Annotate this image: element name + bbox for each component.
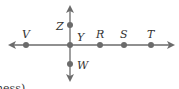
point-y bbox=[67, 42, 73, 48]
label-z: Z bbox=[55, 20, 64, 33]
point-r bbox=[97, 42, 103, 48]
point-t bbox=[148, 42, 154, 48]
point-w bbox=[67, 61, 73, 67]
label-v: V bbox=[22, 28, 31, 41]
cut-off-text: ness) bbox=[0, 82, 25, 89]
label-y: Y bbox=[77, 31, 86, 44]
point-s bbox=[121, 42, 127, 48]
label-r: R bbox=[95, 28, 104, 41]
label-w: W bbox=[77, 59, 90, 72]
label-t: T bbox=[147, 28, 156, 41]
line-diagram: V Y R S T Z W ness) bbox=[0, 0, 179, 89]
point-z bbox=[67, 22, 73, 28]
label-s: S bbox=[120, 28, 128, 41]
point-v bbox=[23, 42, 29, 48]
